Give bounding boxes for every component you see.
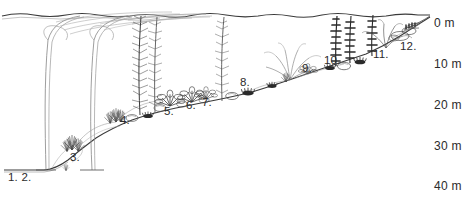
depth-tick-0m: 0 m [434, 17, 455, 29]
water-surface-line [2, 14, 430, 21]
depth-tick-40m: 40 m [434, 180, 462, 192]
zone-label-12: 12. [400, 41, 417, 53]
zone-label-7: 7. [202, 97, 212, 109]
figure-canvas: 1. 2. 3. 4. 5. 6. 7. 8. 9. 10. 11. 12. 0… [0, 0, 473, 199]
zone-label-4: 4. [120, 115, 130, 127]
zone-label-1-2: 1. 2. [8, 172, 31, 184]
zone-label-5: 5. [164, 106, 174, 118]
depth-tick-10m: 10 m [434, 58, 462, 70]
zone-label-9: 9. [302, 63, 312, 75]
depth-tick-30m: 30 m [434, 140, 462, 152]
vegetation-profile-drawing [0, 0, 473, 199]
zone-label-8: 8. [240, 77, 250, 89]
zone-label-6: 6. [186, 100, 196, 112]
plant-group-12-shoreline [389, 16, 430, 41]
depth-tick-20m: 20 m [434, 99, 462, 111]
zone-label-10: 10. [324, 55, 341, 67]
zone-label-11: 11. [373, 49, 389, 61]
zone-label-3: 3. [70, 152, 80, 164]
